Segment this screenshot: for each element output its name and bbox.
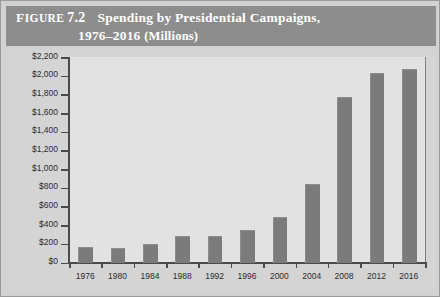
y-axis-tick-label: $2,000 (32, 69, 58, 79)
y-axis-tick: $0 (61, 263, 68, 265)
bar (273, 217, 288, 264)
x-axis-tick-label: 2016 (399, 271, 418, 281)
x-axis-tick (263, 262, 265, 268)
figure-container: FIGURE7.2Spending by Presidential Campai… (0, 0, 440, 297)
y-axis-tick-label: $200 (39, 237, 58, 247)
x-axis-tick (393, 262, 395, 268)
x-axis-tick (328, 262, 330, 268)
x-axis-tick (166, 262, 168, 268)
bar (143, 244, 158, 264)
bar (208, 236, 223, 263)
chart-panel: $0$200$400$600$800$1,000$1,200$1,400$1,6… (6, 49, 436, 293)
figure-header-line-1: FIGURE7.2Spending by Presidential Campai… (16, 9, 436, 27)
x-axis-tick-label: 2004 (302, 271, 321, 281)
y-axis-tick: $1,200 (61, 150, 68, 152)
x-axis-tick (101, 262, 103, 268)
y-axis-tick: $2,200 (61, 57, 68, 59)
y-axis-tick-label: $1,600 (32, 107, 58, 117)
y-axis-tick: $1,800 (61, 94, 68, 96)
x-axis-tick-label: 1984 (140, 271, 159, 281)
y-axis-tick: $200 (61, 244, 68, 246)
bar (175, 236, 190, 263)
x-axis-tick-label: 2008 (335, 271, 354, 281)
y-axis-tick: $1,400 (61, 132, 68, 134)
y-axis-tick-label: $1,000 (32, 163, 58, 173)
x-axis-tick (198, 262, 200, 268)
y-axis-tick: $2,000 (61, 76, 68, 78)
x-axis-tick-label: 1980 (108, 271, 127, 281)
x-axis-tick-label: 1988 (173, 271, 192, 281)
figure-label-rest: IGURE (25, 12, 65, 24)
y-axis-tick: $1,000 (61, 169, 68, 171)
x-axis-tick-label: 1996 (238, 271, 257, 281)
x-axis-tick-label: 2000 (270, 271, 289, 281)
x-axis-tick-label: 1976 (76, 271, 95, 281)
x-axis-tick (69, 262, 71, 268)
y-axis-tick: $600 (61, 206, 68, 208)
x-axis-tick (296, 262, 298, 268)
bar (305, 184, 320, 264)
figure-title-years: 1976–2016 (78, 28, 141, 43)
x-axis-tick (134, 262, 136, 268)
y-axis-tick-label: $600 (39, 200, 58, 210)
y-axis-tick-label: $1,800 (32, 88, 58, 98)
x-axis-tick (231, 262, 233, 268)
figure-header-band: FIGURE7.2Spending by Presidential Campai… (6, 6, 436, 46)
bar (402, 69, 417, 263)
figure-header-line-2: 1976–2016 (Millions) (16, 27, 436, 45)
x-axis-tick (425, 262, 427, 268)
bar (111, 248, 126, 264)
y-axis-tick-label: $2,200 (32, 51, 58, 61)
bar (337, 97, 352, 263)
bar (240, 230, 255, 263)
y-axis-tick: $400 (61, 225, 68, 227)
x-axis-tick-label: 1992 (205, 271, 224, 281)
bar (78, 247, 93, 264)
y-axis-tick-label: $1,400 (32, 125, 58, 135)
y-axis-tick: $800 (61, 188, 68, 190)
figure-title-line-1: Spending by Presidential Campaigns, (97, 10, 320, 25)
y-axis-tick-label: $1,200 (32, 144, 58, 154)
figure-label-word: FIGURE (16, 12, 64, 24)
y-axis-tick: $1,600 (61, 113, 68, 115)
x-axis-tick-label: 2012 (367, 271, 386, 281)
y-axis-tick-label: $800 (39, 181, 58, 191)
x-axis-tick (360, 262, 362, 268)
figure-number: 7.2 (67, 10, 85, 25)
y-axis-line (68, 57, 70, 264)
y-axis-tick-label: $400 (39, 219, 58, 229)
bar (370, 73, 385, 264)
y-axis-tick-label: $0 (49, 256, 58, 266)
figure-title-units: (Millions) (144, 29, 198, 43)
